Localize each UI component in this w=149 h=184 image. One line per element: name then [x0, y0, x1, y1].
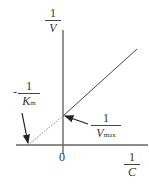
regression-line: [63, 49, 137, 116]
origin-label: 0: [59, 150, 65, 165]
x-axis-label: 1 C: [124, 151, 140, 178]
y-intercept-arrow: [65, 116, 88, 124]
extrapolation-dashed-line: [28, 116, 63, 145]
negative-sign: -: [13, 85, 17, 100]
y-intercept-label: 1 Vmax: [91, 112, 121, 141]
x-intercept-arrow: [22, 113, 28, 143]
y-axis-label: 1 V: [45, 7, 61, 34]
x-intercept-label: 1 Km: [18, 80, 40, 109]
